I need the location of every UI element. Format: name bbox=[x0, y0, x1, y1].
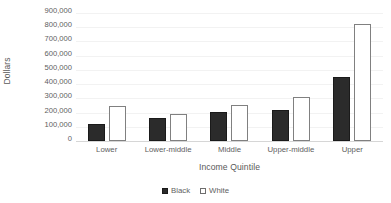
bar-black-upper-middle[interactable] bbox=[272, 110, 289, 141]
y-axis-tick-labels: 900,000800,000700,000600,000500,000400,0… bbox=[14, 7, 75, 148]
bar-black-middle[interactable] bbox=[210, 112, 227, 141]
bar-black-lower-middle[interactable] bbox=[149, 118, 166, 141]
bar-group bbox=[76, 13, 137, 141]
y-axis-tick-label: 500,000 bbox=[14, 64, 72, 72]
y-axis-tick-label: 100,000 bbox=[14, 121, 72, 129]
bar-black-lower[interactable] bbox=[88, 124, 105, 141]
y-axis-tick-label: 200,000 bbox=[14, 107, 72, 115]
legend-swatch-icon bbox=[162, 188, 168, 194]
bar-white-lower[interactable] bbox=[109, 106, 126, 141]
bar-white-middle[interactable] bbox=[231, 105, 248, 141]
chart-legend: BlackWhite bbox=[0, 186, 391, 195]
bar-group bbox=[260, 13, 321, 141]
bar-white-lower-middle[interactable] bbox=[170, 114, 187, 141]
bar-white-upper-middle[interactable] bbox=[293, 97, 310, 141]
y-axis-tick-label: 600,000 bbox=[14, 50, 72, 58]
x-axis-title: Income Quintile bbox=[76, 162, 383, 172]
y-axis-title-label: Dollars bbox=[2, 57, 12, 84]
y-axis-tick-label: 400,000 bbox=[14, 78, 72, 86]
legend-entry-black[interactable]: Black bbox=[162, 186, 190, 195]
legend-entry-white[interactable]: White bbox=[200, 186, 229, 195]
y-axis-tick-label: 700,000 bbox=[14, 35, 72, 43]
y-axis-title: Dollars bbox=[0, 0, 14, 141]
y-axis-tick-label: 800,000 bbox=[14, 21, 72, 29]
x-axis-tick-label: Upper bbox=[314, 144, 391, 156]
legend-label: White bbox=[209, 186, 229, 195]
y-axis-tick-label: 0 bbox=[14, 135, 72, 143]
bar-chart: Dollars 900,000800,000700,000600,000500,… bbox=[0, 0, 391, 203]
bar-group bbox=[322, 13, 383, 141]
x-axis-tick-labels: LowerLower-middleMiddleUpper-middleUpper bbox=[76, 144, 383, 158]
legend-label: Black bbox=[171, 186, 190, 195]
bar-group bbox=[199, 13, 260, 141]
bar-black-upper[interactable] bbox=[333, 77, 350, 141]
bar-group bbox=[137, 13, 198, 141]
bar-white-upper[interactable] bbox=[354, 24, 371, 141]
bars-layer bbox=[76, 13, 383, 141]
y-axis-tick-label: 300,000 bbox=[14, 92, 72, 100]
y-axis-tick-label: 900,000 bbox=[14, 7, 72, 15]
legend-swatch-icon bbox=[200, 188, 206, 194]
x-axis-line bbox=[76, 141, 383, 142]
